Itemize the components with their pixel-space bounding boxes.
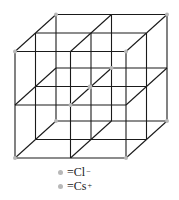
- lattice-edge: [15, 87, 36, 106]
- lattice-edge: [126, 33, 147, 52]
- lattice-edge: [71, 140, 92, 159]
- lattice-edge: [36, 121, 57, 140]
- lattice-edge: [71, 33, 92, 52]
- chloride-ion-icon: [124, 156, 128, 160]
- lattice-edge: [126, 140, 147, 159]
- lattice-edge: [36, 15, 57, 34]
- chloride-ion-icon: [13, 50, 17, 54]
- legend-chloride: = Cl−: [58, 166, 91, 178]
- chloride-ion-icon: [124, 50, 128, 54]
- lattice-edge: [36, 68, 57, 87]
- chloride-ion-icon: [13, 156, 17, 160]
- cesium-ion-icon: [88, 85, 93, 90]
- legend-cesium: = Cs+: [58, 180, 92, 192]
- lattice-edge: [126, 87, 147, 106]
- lattice-edge: [147, 68, 168, 87]
- lattice-edge: [91, 121, 112, 140]
- lattice-edge: [15, 33, 36, 52]
- lattice-edge: [91, 68, 112, 87]
- legend-cesium-prefix: =: [67, 180, 74, 192]
- lattice-edge: [147, 121, 168, 140]
- chloride-ion-icon: [165, 13, 169, 17]
- chloride-ion-icon: [69, 103, 73, 107]
- legend-cesium-symbol: Cs: [74, 180, 87, 192]
- legend-chloride-symbol: Cl: [74, 166, 85, 178]
- legend-chloride-prefix: =: [67, 166, 74, 178]
- chloride-ion-icon: [165, 119, 169, 123]
- lattice-edge: [91, 15, 112, 34]
- lattice-edge: [15, 140, 36, 159]
- chloride-ion-icon: [54, 13, 58, 17]
- lattice-edge: [71, 87, 92, 106]
- chloride-ion-icon: [54, 119, 58, 123]
- chloride-ion-icon: [58, 170, 63, 175]
- chloride-ion-icon: [110, 66, 114, 70]
- lattice-edge: [147, 15, 168, 34]
- cesium-ion-icon: [58, 184, 63, 189]
